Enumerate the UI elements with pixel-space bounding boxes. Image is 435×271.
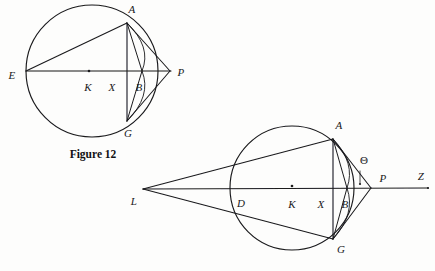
figure2-label-B: B	[342, 199, 349, 210]
diagram-page: E A G K X B P Figure 12 L D K X B A G P …	[0, 0, 435, 271]
figure2-label-A: A	[336, 120, 343, 131]
figure12-label-B: B	[136, 82, 143, 93]
figure2-axis-L-Z	[143, 188, 428, 189]
figure2-label-L: L	[131, 196, 137, 207]
figure2-center-dot	[291, 185, 294, 188]
figure2-line-L-A	[143, 139, 333, 189]
figure12-label-P: P	[178, 67, 185, 78]
figure2-chord-G-B	[333, 188, 347, 239]
figure2-z-endpoint	[427, 187, 429, 189]
figure2-label-theta: Θ	[360, 155, 368, 166]
figure12-chord-A-B	[127, 23, 142, 71]
figure2-label-X: X	[318, 199, 325, 210]
figure2-label-D: D	[237, 198, 245, 209]
figure12-chord-E-A	[26, 23, 127, 71]
figure2-label-Z: Z	[418, 171, 424, 182]
figure12-label-A: A	[129, 4, 136, 15]
geometry-figures	[0, 0, 435, 271]
figure2-angle-dot	[359, 183, 361, 185]
figure2-label-G: G	[337, 244, 345, 255]
figure2-chord-A-B	[333, 139, 347, 188]
figure12-label-K: K	[84, 82, 92, 93]
figure2-label-K: K	[288, 199, 296, 210]
figure2-label-P: P	[380, 173, 387, 184]
figure2-arc-A-B-G	[333, 139, 350, 239]
figure12-chord-G-B	[127, 71, 142, 121]
figure12-label-E: E	[9, 70, 16, 81]
figure12-label-X: X	[109, 82, 116, 93]
figure-caption: Figure 12	[70, 149, 117, 161]
figure2-tangent-G-P	[333, 188, 371, 239]
figure12-label-G: G	[124, 128, 132, 139]
figure12-center-dot	[88, 70, 91, 73]
figure12-arc-A-B-G	[127, 23, 145, 121]
